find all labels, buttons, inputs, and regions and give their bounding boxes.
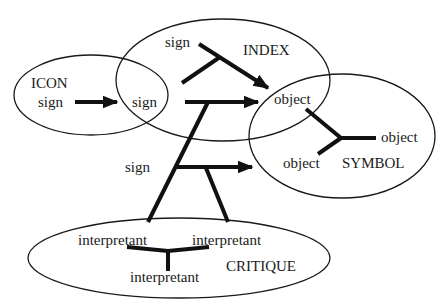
right-leg-line (206, 168, 228, 222)
symbol-object-junction (306, 109, 376, 138)
index-title: INDEX (243, 42, 290, 58)
critique-interpretant-right: interpretant (192, 232, 262, 248)
critique-interpretant-left: interpretant (78, 232, 148, 248)
index-shared-sign-branch (182, 57, 220, 83)
middle-sign-label: sign (125, 159, 151, 175)
symbol-title: SYMBOL (342, 155, 405, 171)
semiotic-diagram: ICON sign sign sign INDEX object object … (0, 0, 446, 304)
index-set-ellipse (116, 19, 330, 141)
shared-sign-label: sign (132, 94, 158, 110)
critique-title: CRITIQUE (226, 258, 296, 274)
symbol-object-right: object (381, 129, 418, 145)
critique-interpretant-bottom: interpretant (130, 269, 200, 285)
symbol-bottom-branch (318, 138, 341, 154)
left-leg-line (148, 102, 208, 222)
symbol-object-top: object (274, 91, 311, 107)
symbol-object-bottom: object (283, 155, 320, 171)
icon-sign-label: sign (38, 94, 64, 110)
index-sign-label: sign (165, 34, 191, 50)
icon-title: ICON (31, 75, 68, 91)
